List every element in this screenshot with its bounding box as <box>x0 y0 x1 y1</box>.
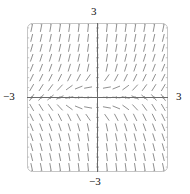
axis-label-right: 3 <box>176 91 182 102</box>
axis-label-bottom: −3 <box>89 176 101 187</box>
slope-field-figure: 3 −3 −3 3 <box>0 0 190 194</box>
axis-label-left: −3 <box>3 91 15 102</box>
axis-label-top: 3 <box>91 6 97 17</box>
slope-field-canvas <box>0 0 190 194</box>
